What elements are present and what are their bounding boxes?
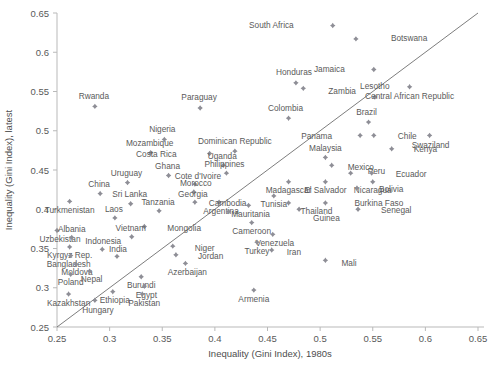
data-point[interactable]: Jamaica [314,64,377,74]
point-marker[interactable] [330,23,335,28]
point-marker[interactable] [370,179,375,184]
data-point[interactable]: Iran [269,247,301,257]
point-label: Azerbaijan [168,267,208,277]
point-marker[interactable] [129,234,134,239]
data-point[interactable]: Jordan [173,251,223,261]
point-label: Pakistan [128,298,160,308]
point-marker[interactable] [329,163,334,168]
point-marker[interactable] [293,80,298,85]
point-marker[interactable] [92,298,97,303]
data-point[interactable]: Colombia [268,103,303,121]
x-tick-label: 0.5 [314,333,327,344]
point-marker[interactable] [286,115,291,120]
data-point[interactable]: El Salvador [304,179,347,195]
point-label: Nepal [81,274,103,284]
point-label: Uruguay [111,168,143,178]
x-tick-label: 0.35 [153,333,172,344]
point-label: Rwanda [79,91,110,101]
point-marker[interactable] [323,200,328,205]
data-point[interactable]: Botswana [353,33,428,43]
data-point[interactable]: Tunisia [261,193,288,209]
point-marker[interactable] [128,201,133,206]
point-marker[interactable] [170,243,175,248]
y-axis-title: Inequality (Gini Index), latest [3,109,14,230]
point-label: Kenya [414,144,438,154]
point-marker[interactable] [249,220,254,225]
x-tick-label: 0.4 [208,333,221,344]
point-marker[interactable] [301,86,306,91]
data-point[interactable]: Armenia [238,287,269,303]
data-point[interactable]: Kenya [389,144,438,154]
point-marker[interactable] [67,199,72,204]
point-label: Panama [301,131,332,141]
point-marker[interactable] [407,84,412,89]
point-marker[interactable] [269,247,274,252]
data-point[interactable]: Mongolia [142,223,202,233]
point-marker[interactable] [97,191,102,196]
point-marker[interactable] [100,247,105,252]
point-marker[interactable] [67,244,72,249]
data-point[interactable]: Tanzania [141,197,175,213]
point-marker[interactable] [246,203,251,208]
point-marker[interactable] [286,179,291,184]
data-point[interactable]: Chile [371,131,417,141]
point-label: Hungary [82,305,114,315]
point-marker[interactable] [323,155,328,160]
point-marker[interactable] [371,67,376,72]
data-point[interactable]: Cameroon [232,220,271,236]
point-marker[interactable] [110,289,115,294]
point-label: Tanzania [141,197,175,207]
data-point[interactable]: South Africa [249,20,335,30]
point-label: Laos [105,204,123,214]
data-point[interactable]: India [109,244,127,259]
point-marker[interactable] [366,119,371,124]
data-point[interactable]: Georgia [178,189,208,205]
point-marker[interactable] [427,133,432,138]
data-point[interactable]: Burundi [127,274,156,290]
point-marker[interactable] [156,208,161,213]
data-point[interactable]: Kyrgyz Rep. [47,244,92,260]
point-label: El Salvador [304,185,347,195]
point-marker[interactable] [114,254,119,259]
point-marker[interactable] [353,36,358,41]
data-point[interactable]: Malaysia [309,143,342,160]
point-marker[interactable] [389,146,394,151]
point-marker[interactable] [112,215,117,220]
point-marker[interactable] [66,291,71,296]
y-tick-label: 0.25 [31,322,50,333]
data-point[interactable]: Costa Rica [136,149,212,159]
point-marker[interactable] [192,199,197,204]
x-tick-label: 0.55 [364,333,383,344]
data-point[interactable]: Azerbaijan [168,261,208,277]
point-label: Cameroon [232,226,271,236]
data-point[interactable]: Honduras [276,67,312,85]
data-point[interactable]: Panama [301,131,363,141]
point-marker[interactable] [251,287,256,292]
data-point[interactable]: Turkmenistan [45,199,95,215]
point-label: Jamaica [314,64,345,74]
point-marker[interactable] [323,179,328,184]
point-marker[interactable] [357,133,362,138]
data-point[interactable]: China [88,179,110,196]
point-marker[interactable] [197,105,202,110]
data-point[interactable]: Zambia [301,86,357,96]
point-marker[interactable] [183,261,188,266]
point-marker[interactable] [125,180,130,185]
data-point[interactable]: Mali [323,258,357,268]
point-marker[interactable] [139,274,144,279]
data-point[interactable]: Brazil [356,107,377,125]
data-point[interactable]: Rwanda [79,91,110,109]
data-point[interactable]: Laos [105,204,123,220]
point-label: Ghana [155,161,180,171]
point-marker[interactable] [166,173,171,178]
point-marker[interactable] [92,104,97,109]
point-marker[interactable] [224,170,229,175]
data-point[interactable]: Uruguay [111,168,143,185]
point-label: Peru [368,166,386,176]
point-label: Ethiopia [100,295,130,305]
point-label: China [88,179,110,189]
point-marker[interactable] [173,252,178,257]
point-marker[interactable] [323,258,328,263]
point-marker[interactable] [371,133,376,138]
data-point[interactable]: Paraguay [181,92,217,110]
